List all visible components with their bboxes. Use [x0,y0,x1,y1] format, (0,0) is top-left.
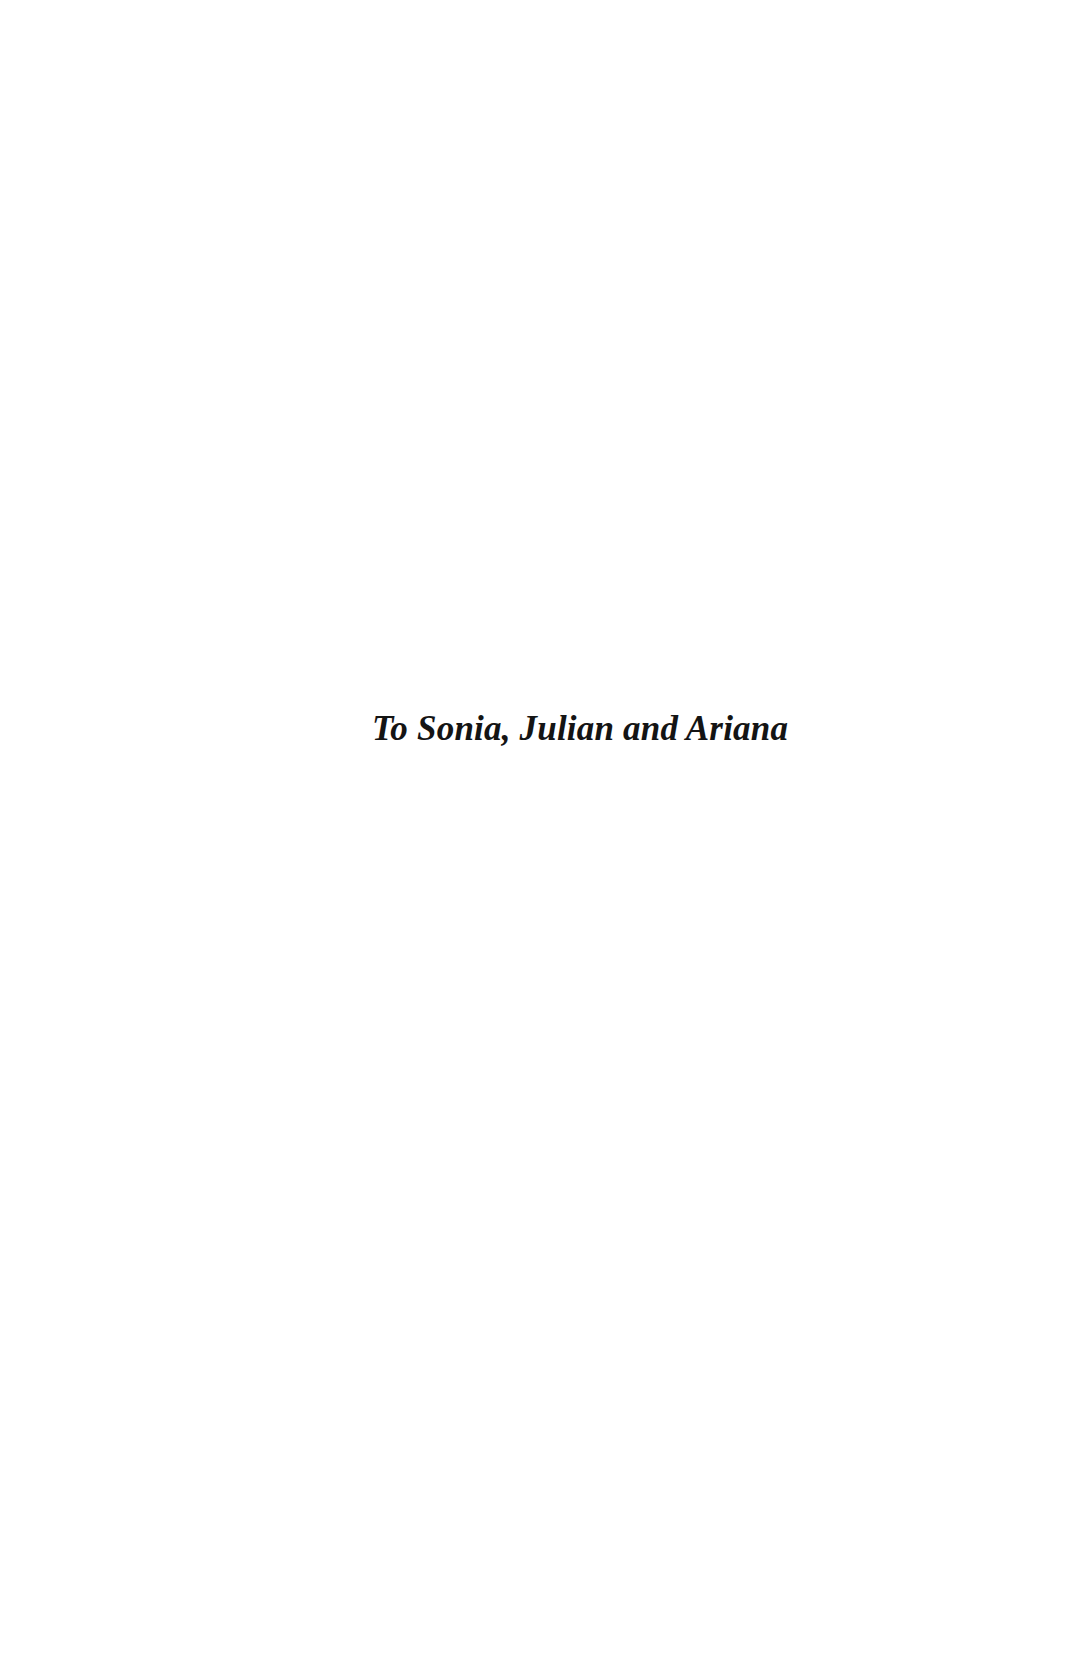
dedication-text: To Sonia, Julian and Ariana [372,708,788,750]
book-page: To Sonia, Julian and Ariana [0,0,1086,1663]
